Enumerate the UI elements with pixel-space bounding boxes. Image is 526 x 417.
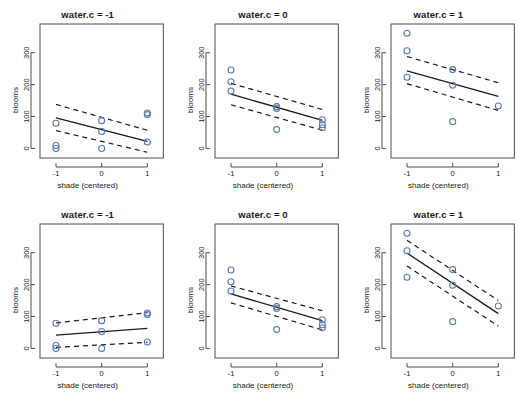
y-axis-tick-label: 300 bbox=[198, 246, 207, 259]
y-axis-tick-label: 100 bbox=[22, 110, 31, 123]
x-axis-title: shade (centered) bbox=[351, 381, 526, 390]
x-axis-tick-label: 1 bbox=[145, 369, 149, 378]
plot-frame bbox=[40, 224, 163, 358]
data-point bbox=[53, 120, 59, 126]
x-axis-title: shade (centered) bbox=[0, 381, 175, 390]
plot-panel: water.c = 00100200300-101shade (centered… bbox=[175, 200, 350, 400]
data-point bbox=[228, 279, 234, 285]
ci-upper-line bbox=[407, 57, 498, 83]
y-axis-tick-label: 200 bbox=[22, 78, 31, 91]
data-point bbox=[99, 145, 105, 151]
data-point bbox=[404, 230, 410, 236]
y-axis-tick-label: 0 bbox=[373, 346, 382, 350]
y-axis-tick-label: 200 bbox=[373, 78, 382, 91]
x-axis-tick-label: -1 bbox=[53, 369, 60, 378]
y-axis-tick-label: 300 bbox=[373, 246, 382, 259]
plot-frame bbox=[391, 224, 514, 358]
y-axis-tick-label: 200 bbox=[198, 78, 207, 91]
x-axis-tick-label: 1 bbox=[321, 369, 325, 378]
data-point bbox=[228, 288, 234, 294]
y-axis-tick-label: 300 bbox=[373, 46, 382, 59]
data-point bbox=[449, 267, 455, 273]
regression-fit-line bbox=[407, 71, 498, 97]
y-axis-tick-label: 300 bbox=[22, 246, 31, 259]
data-point bbox=[449, 119, 455, 125]
data-point bbox=[99, 345, 105, 351]
y-axis-title: blooms bbox=[187, 287, 196, 313]
data-point bbox=[404, 48, 410, 54]
x-axis-tick-label: 1 bbox=[145, 169, 149, 178]
x-axis-tick-label: -1 bbox=[53, 169, 60, 178]
data-point bbox=[228, 267, 234, 273]
regression-panel-figure: water.c = -10100200300-101shade (centere… bbox=[0, 0, 526, 417]
plot-area: 0100200300-101 bbox=[0, 0, 175, 200]
x-axis-tick-label: 1 bbox=[496, 169, 500, 178]
y-axis-tick-label: 0 bbox=[22, 146, 31, 150]
ci-upper-line bbox=[407, 240, 498, 300]
plot-panel: water.c = 00100200300-101shade (centered… bbox=[175, 0, 350, 200]
y-axis-title: blooms bbox=[11, 287, 20, 313]
data-point bbox=[228, 67, 234, 73]
y-axis-tick-label: 100 bbox=[198, 310, 207, 323]
plot-panel: water.c = -10100200300-101shade (centere… bbox=[0, 0, 175, 200]
data-point bbox=[404, 248, 410, 254]
x-axis-title: shade (centered) bbox=[175, 381, 350, 390]
plot-area: 0100200300-101 bbox=[0, 200, 175, 400]
y-axis-tick-label: 100 bbox=[373, 310, 382, 323]
plot-frame bbox=[40, 24, 163, 158]
figure-caption bbox=[0, 400, 526, 417]
x-axis-tick-label: 0 bbox=[450, 369, 454, 378]
x-axis-tick-label: 0 bbox=[450, 169, 454, 178]
plot-area: 0100200300-101 bbox=[175, 200, 350, 400]
y-axis-title: blooms bbox=[362, 287, 371, 313]
y-axis-tick-label: 100 bbox=[373, 110, 382, 123]
x-axis-tick-label: -1 bbox=[403, 369, 410, 378]
regression-fit-line bbox=[56, 118, 147, 142]
plot-area: 0100200300-101 bbox=[351, 0, 526, 200]
y-axis-tick-label: 200 bbox=[198, 278, 207, 291]
regression-fit-line bbox=[231, 94, 322, 120]
y-axis-tick-label: 200 bbox=[373, 278, 382, 291]
ci-lower-line bbox=[407, 266, 498, 326]
data-point bbox=[404, 30, 410, 36]
x-axis-tick-label: 0 bbox=[100, 169, 104, 178]
y-axis-tick-label: 0 bbox=[373, 146, 382, 150]
data-point bbox=[404, 274, 410, 280]
y-axis-tick-label: 100 bbox=[198, 110, 207, 123]
plot-frame bbox=[391, 24, 514, 158]
y-axis-tick-label: 0 bbox=[198, 146, 207, 150]
y-axis-title: blooms bbox=[362, 87, 371, 113]
plot-panel: water.c = 10100200300-101shade (centered… bbox=[351, 200, 526, 400]
x-axis-tick-label: 0 bbox=[275, 169, 279, 178]
x-axis-tick-label: 1 bbox=[321, 169, 325, 178]
panel-grid: water.c = -10100200300-101shade (centere… bbox=[0, 0, 526, 400]
data-point bbox=[99, 118, 105, 124]
x-axis-title: shade (centered) bbox=[351, 181, 526, 190]
ci-lower-line bbox=[407, 84, 498, 111]
y-axis-tick-label: 300 bbox=[198, 46, 207, 59]
regression-fit-line bbox=[407, 253, 498, 314]
data-point bbox=[495, 103, 501, 109]
y-axis-tick-label: 0 bbox=[22, 346, 31, 350]
y-axis-tick-label: 0 bbox=[198, 346, 207, 350]
data-point bbox=[274, 327, 280, 333]
x-axis-tick-label: -1 bbox=[403, 169, 410, 178]
plot-area: 0100200300-101 bbox=[175, 0, 350, 200]
x-axis-title: shade (centered) bbox=[175, 181, 350, 190]
y-axis-tick-label: 300 bbox=[22, 46, 31, 59]
x-axis-tick-label: -1 bbox=[228, 169, 235, 178]
x-axis-tick-label: -1 bbox=[228, 369, 235, 378]
ci-lower-line bbox=[56, 131, 147, 153]
plot-area: 0100200300-101 bbox=[351, 200, 526, 400]
data-point bbox=[495, 303, 501, 309]
y-axis-tick-label: 100 bbox=[22, 310, 31, 323]
data-point bbox=[99, 318, 105, 324]
data-point bbox=[274, 127, 280, 133]
x-axis-tick-label: 1 bbox=[496, 369, 500, 378]
x-axis-title: shade (centered) bbox=[0, 181, 175, 190]
data-point bbox=[228, 88, 234, 94]
y-axis-title: blooms bbox=[187, 87, 196, 113]
y-axis-tick-label: 200 bbox=[22, 278, 31, 291]
data-point bbox=[144, 339, 150, 345]
x-axis-tick-label: 0 bbox=[100, 369, 104, 378]
